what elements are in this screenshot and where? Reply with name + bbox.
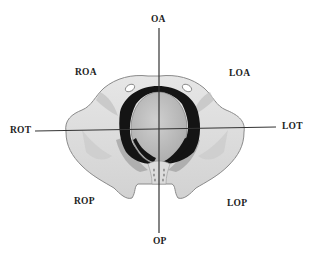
label-lot: LOT <box>282 121 303 131</box>
label-roa: ROA <box>75 67 97 77</box>
label-loa: LOA <box>229 68 250 78</box>
pelvis-position-diagram: OA OP ROT LOT ROA LOA ROP LOP <box>0 0 309 256</box>
label-lop: LOP <box>227 198 247 208</box>
label-rop: ROP <box>74 196 95 206</box>
label-rot: ROT <box>10 125 31 135</box>
label-op: OP <box>153 236 167 246</box>
pelvis-illustration <box>0 0 309 256</box>
label-oa: OA <box>151 14 166 24</box>
